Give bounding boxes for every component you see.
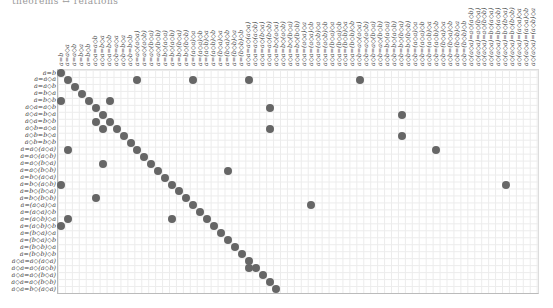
relation-dot xyxy=(502,181,510,189)
relation-dot xyxy=(154,167,162,175)
relation-dot xyxy=(356,76,364,84)
relation-dot xyxy=(57,97,65,105)
relation-dot xyxy=(92,118,100,126)
relation-dot xyxy=(266,125,274,133)
relation-dot xyxy=(161,174,169,182)
relation-dot xyxy=(78,90,86,98)
relation-dot xyxy=(266,104,274,112)
relation-dot xyxy=(398,111,406,119)
relation-dot xyxy=(120,132,128,140)
relation-dot xyxy=(92,104,100,112)
relation-dot xyxy=(99,111,107,119)
relation-dot xyxy=(99,160,107,168)
relation-dot xyxy=(224,167,232,175)
column-label: a◇(a◇a)=(a◇b)◇a xyxy=(530,8,537,66)
relation-dot xyxy=(266,278,274,286)
relation-dot xyxy=(106,97,114,105)
relation-dot xyxy=(71,83,79,91)
relation-dot xyxy=(147,160,155,168)
relation-dot xyxy=(57,69,65,77)
relation-dot xyxy=(245,76,253,84)
relation-dot xyxy=(85,97,93,105)
relation-dot xyxy=(64,76,72,84)
relation-dot xyxy=(259,271,267,279)
relation-dot xyxy=(99,125,107,133)
row-label: a◇a=b◇(a◇a) xyxy=(12,286,56,293)
relation-dot xyxy=(398,132,406,140)
relation-dot xyxy=(189,76,197,84)
relation-dot xyxy=(252,264,260,272)
relation-grid xyxy=(57,69,539,294)
relation-dot xyxy=(238,250,246,258)
relation-dot xyxy=(113,125,121,133)
relation-dot xyxy=(127,139,135,147)
relation-dot xyxy=(231,243,239,251)
relation-dot xyxy=(57,181,65,189)
relation-dot xyxy=(106,118,114,126)
relation-dot xyxy=(64,146,72,154)
relation-dot xyxy=(432,146,440,154)
relation-dot xyxy=(168,181,176,189)
chart-title: theorems ↔ relations xyxy=(12,0,118,6)
